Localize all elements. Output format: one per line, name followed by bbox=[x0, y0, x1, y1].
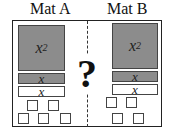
mat-a-label: Mat A bbox=[30, 0, 70, 18]
x-squared-base: x bbox=[35, 39, 42, 57]
mat-a-x-squared-tile: x2 bbox=[18, 25, 65, 71]
x-squared-base: x bbox=[129, 37, 136, 55]
mat-a-unit-tile bbox=[27, 100, 38, 111]
mat-b-x-tile-gray: x bbox=[112, 71, 158, 82]
mat-a-unit-tile bbox=[38, 113, 49, 124]
mat-a-x-tile-gray: x bbox=[18, 73, 65, 84]
comparison-question-mark: ? bbox=[76, 54, 98, 94]
mat-a-unit-tile bbox=[18, 113, 29, 124]
mat-b-x-tile-white: x bbox=[112, 84, 158, 95]
mat-b-unit-tile bbox=[126, 97, 137, 108]
x-tile-label: x bbox=[132, 82, 138, 98]
x-tile-label: x bbox=[39, 84, 45, 100]
mat-a-unit-tile bbox=[48, 100, 59, 111]
mat-b-unit-tile bbox=[133, 113, 144, 124]
mat-a-unit-tile bbox=[60, 113, 71, 124]
mat-b-x-squared-tile: x2 bbox=[112, 23, 158, 69]
mat-b-unit-tile bbox=[106, 97, 117, 108]
mat-b-label: Mat B bbox=[107, 0, 147, 18]
mat-a-x-tile-white: x bbox=[18, 86, 65, 97]
mat-b-unit-tile bbox=[112, 113, 123, 124]
